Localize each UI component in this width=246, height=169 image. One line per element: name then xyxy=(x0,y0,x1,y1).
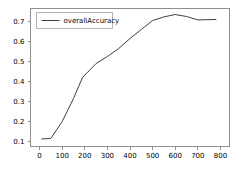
y-tick-label: 0.6 xyxy=(13,38,25,46)
plot-area: 0100200300400500600700800 0.10.20.30.40.… xyxy=(13,9,229,160)
legend-entry-label: overallAccuracy xyxy=(64,17,120,25)
y-tick-label: 0.4 xyxy=(13,78,25,86)
x-tick-labels: 0100200300400500600700800 xyxy=(37,152,227,160)
y-tick-label: 0.1 xyxy=(13,138,24,146)
x-tick-label: 200 xyxy=(78,152,91,160)
y-tick-label: 0.2 xyxy=(13,118,24,126)
y-tick-label: 0.5 xyxy=(13,58,24,66)
x-tick-label: 800 xyxy=(214,152,227,160)
y-tick-labels: 0.10.20.30.40.50.60.7 xyxy=(13,18,25,146)
line-chart: 0100200300400500600700800 0.10.20.30.40.… xyxy=(0,0,246,169)
y-tick-label: 0.7 xyxy=(13,18,24,26)
x-tick-label: 600 xyxy=(169,152,182,160)
chart-legend: overallAccuracy xyxy=(37,13,120,29)
plot-background xyxy=(31,9,230,147)
x-tick-label: 700 xyxy=(191,152,204,160)
x-tick-label: 100 xyxy=(55,152,68,160)
x-tick-label: 0 xyxy=(37,152,41,160)
x-tick-label: 300 xyxy=(101,152,114,160)
x-tick-label: 400 xyxy=(123,152,136,160)
x-tick-label: 500 xyxy=(146,152,159,160)
chart-figure: 0100200300400500600700800 0.10.20.30.40.… xyxy=(0,0,246,169)
y-tick-label: 0.3 xyxy=(13,98,24,106)
